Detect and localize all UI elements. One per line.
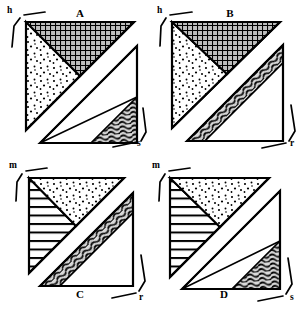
panel-c-corner-label-m: m <box>9 161 17 171</box>
panel-d-tick-s-arm <box>258 296 283 301</box>
panel-c-tick-r-arm <box>112 293 136 298</box>
panel-b-label: B <box>210 8 250 19</box>
panel-a-label: A <box>60 8 100 19</box>
panel-d-diagram <box>152 155 304 310</box>
panel-a-corner-label-h: h <box>7 6 12 16</box>
panel-c-tick-m-arm <box>26 168 47 171</box>
panel-b-corner-label-r: r <box>290 139 294 149</box>
panel-d: D m s <box>152 155 304 310</box>
panel-b-tick-h-arm <box>170 12 192 15</box>
panel-c-tick-m <box>16 174 22 201</box>
panel-a-corner-label-s: s <box>137 139 141 149</box>
panel-c-tick-r <box>139 255 145 291</box>
panel-b-diagram <box>152 0 304 155</box>
panel-d-tick-m-arm <box>169 168 190 171</box>
panel-d-tick-s <box>286 258 292 294</box>
panel-c: C m r <box>0 155 152 310</box>
panel-c-label: C <box>60 289 100 300</box>
panel-b-corner-label-h: h <box>157 6 162 16</box>
panel-a: A h s <box>0 0 152 155</box>
panel-b-tick-r-arm <box>262 143 286 148</box>
panel-b-tick-r <box>289 105 295 141</box>
panel-d-tick-m <box>159 174 165 201</box>
panel-d-corner-label-m: m <box>152 161 160 171</box>
panel-a-tick-h <box>12 18 20 47</box>
panel-a-tick-s <box>141 108 146 141</box>
panel-b: B h r <box>152 0 304 155</box>
panel-d-corner-label-s: s <box>290 293 294 303</box>
panel-a-tick-h-arm <box>24 12 45 15</box>
panel-b-tick-h <box>160 18 166 46</box>
panel-c-corner-label-r: r <box>139 293 143 303</box>
figure-panel-grid: A h s <box>0 0 304 310</box>
panel-a-diagram <box>0 0 152 155</box>
panel-c-diagram <box>0 155 152 310</box>
panel-d-label: D <box>204 289 244 300</box>
